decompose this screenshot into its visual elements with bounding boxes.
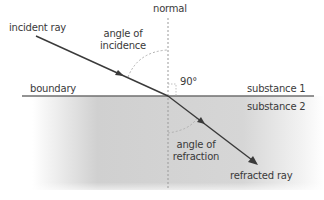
right-angle-marker — [168, 84, 176, 96]
refracted-ray-label: refracted ray — [230, 170, 292, 182]
incident-ray-label: incident ray — [9, 22, 66, 34]
angle-of-refraction-line2: refraction — [170, 151, 222, 163]
right-angle-label: 90° — [180, 76, 197, 88]
angle-of-refraction-line1: angle of — [170, 139, 222, 151]
angle-of-refraction-label: angle of refraction — [170, 139, 222, 163]
boundary-label: boundary — [30, 83, 76, 95]
normal-label: normal — [153, 3, 187, 15]
refraction-diagram: normal incident ray angle of incidence 9… — [0, 0, 324, 200]
angle-of-incidence-line2: incidence — [98, 40, 148, 52]
angle-of-incidence-arc — [128, 50, 167, 77]
substance-1-label: substance 1 — [247, 83, 305, 95]
angle-of-incidence-label: angle of incidence — [98, 28, 148, 52]
angle-of-incidence-line1: angle of — [98, 28, 148, 40]
substance-2-label: substance 2 — [247, 101, 305, 113]
incident-ray-arrow-icon — [115, 70, 124, 76]
